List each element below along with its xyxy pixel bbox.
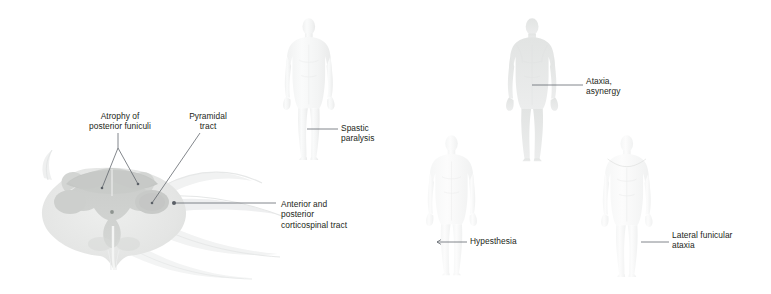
label-ataxia-asynergy: Ataxia, asynergy (586, 76, 648, 97)
label-lateral-funicular-ataxia: Lateral funicular ataxia (672, 230, 766, 251)
label-anterior-posterior-corticospinal-tract: Anterior and posterior corticospinal tra… (281, 199, 377, 230)
figure-hypesthesia (426, 135, 477, 275)
label-spastic-paralysis: Spastic paralysis (341, 123, 403, 144)
label-pyramidal-tract: Pyramidal tract (174, 111, 242, 132)
label-atrophy-posterior-funiculi: Atrophy of posterior funiculi (70, 111, 170, 132)
label-hypesthesia: Hypesthesia (470, 236, 550, 246)
medical-illustration-figure: Atrophy of posterior funiculi Pyramidal … (0, 0, 771, 294)
figure-ataxia-asynergy (506, 18, 558, 161)
figure-spastic-paralysis (283, 18, 335, 160)
figure-lateral-funicular-ataxia (601, 135, 653, 277)
body-figures-layer (0, 0, 771, 294)
